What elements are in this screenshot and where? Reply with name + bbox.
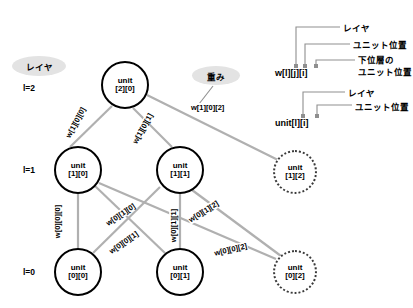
node-unit-0-0[interactable]: unit [0][0] <box>54 248 102 296</box>
edge-label-w000-text: w[0][0][0] <box>53 205 62 238</box>
legend-weight-formula-text: w[l][j][i] <box>275 68 307 78</box>
legend-unit-formula: unit[l][i] <box>275 118 308 128</box>
layer-callout-label: レイヤ <box>26 60 53 72</box>
weight-callout: 重み <box>192 66 240 85</box>
legend-leader-unit-pos-w <box>305 44 350 66</box>
node-unit-0-2[interactable]: unit [0][2] <box>273 250 317 294</box>
weight-callout-pointer <box>199 86 213 104</box>
node-unit-1-1-line2: [1][1] <box>170 170 190 178</box>
legend-unit-unit-position-label: ユニット位置 <box>355 100 409 112</box>
node-unit-0-2-line2: [0][2] <box>285 272 305 280</box>
legend-weight-layer-label: レイヤ <box>343 21 370 33</box>
legend-leader-unit-pos-u <box>317 105 352 116</box>
legend-leader-lower-unit-pos-w <box>316 60 355 66</box>
node-unit-0-0-line2: [0][0] <box>68 272 88 280</box>
node-unit-1-0-line2: [1][0] <box>68 170 88 178</box>
legend-dot-3 <box>314 64 318 68</box>
node-unit-2-0[interactable]: unit [2][0] <box>101 61 149 109</box>
legend-weight-unit-position-label: ユニット位置 <box>353 38 407 50</box>
node-unit-1-0[interactable]: unit [1][0] <box>54 146 102 194</box>
legend-unit-formula-text: unit[l][i] <box>275 118 308 128</box>
node-unit-0-1-line2: [0][1] <box>170 272 190 280</box>
layer-label-l0: l=0 <box>23 267 35 277</box>
edge-label-w102: w[1][0][2] <box>190 103 225 112</box>
legend-leader-layer-u <box>303 92 345 116</box>
edge-label-w102-text: w[1][0][2] <box>191 103 224 112</box>
legend-weight-lower-unit-position-text-line2: ユニット位置 <box>358 67 412 77</box>
legend-unit-layer-text: レイヤ <box>348 88 375 98</box>
edge-label-w000: w[0][0][0] <box>53 204 62 239</box>
neural-network-diagram: レイヤ l=2 l=1 l=0 重み unit [2][0] unit [1][… <box>0 0 413 308</box>
legend-unit-layer-label: レイヤ <box>348 86 375 98</box>
edge-label-w011-text: w[0][1][1] <box>169 209 178 242</box>
node-unit-1-2-line2: [1][2] <box>285 172 305 180</box>
legend-weight-unit-position-text: ユニット位置 <box>353 40 407 50</box>
legend-weight-lower-unit-position-label-line1: 下位層の <box>358 53 394 65</box>
layer-label-l1-text: l=1 <box>23 165 35 175</box>
node-unit-2-0-line2: [2][0] <box>115 85 135 93</box>
callout-pointer-lines <box>199 86 213 104</box>
layer-label-l1: l=1 <box>23 165 35 175</box>
layer-label-l2-text: l=2 <box>23 83 35 93</box>
node-unit-1-1[interactable]: unit [1][1] <box>156 146 204 194</box>
legend-dot-5 <box>315 114 319 118</box>
legend-weight-lower-unit-position-text-line1: 下位層の <box>358 55 394 65</box>
node-unit-0-1[interactable]: unit [0][1] <box>156 248 204 296</box>
legend-unit-unit-position-text: ユニット位置 <box>355 102 409 112</box>
legend-weight-formula: w[l][j][i] <box>275 68 307 78</box>
edge-label-w011: w[0][1][1] <box>169 208 178 243</box>
legend-weight-layer-text: レイヤ <box>343 23 370 33</box>
layer-label-l0-text: l=0 <box>23 267 35 277</box>
legend-weight-lower-unit-position-label-line2: ユニット位置 <box>358 65 412 77</box>
layer-callout: レイヤ <box>12 56 66 76</box>
node-unit-1-2[interactable]: unit [1][2] <box>273 150 317 194</box>
layer-label-l2: l=2 <box>23 83 35 93</box>
weight-callout-label: 重み <box>207 70 225 82</box>
